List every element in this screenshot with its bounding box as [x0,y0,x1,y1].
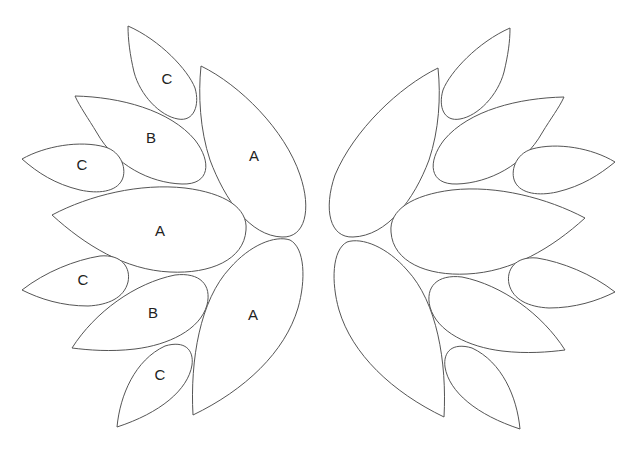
leaf-label: A [249,147,259,164]
leaf-label: C [77,156,88,173]
leaf-label: B [148,304,158,321]
leaf-right-top-c [441,28,510,119]
leaf-left-lower-c: C [22,256,129,306]
left-cluster: C A B C A C B [22,26,306,427]
leaf-left-bottom-c: C [117,344,192,427]
leaf-right-mid-c [513,146,615,194]
leaf-label: C [155,366,166,383]
leaf-right-lower-c [508,258,615,308]
leaf-right-mid-a [391,189,585,274]
leaf-right-bottom-c [445,346,520,429]
leaf-label: C [162,70,173,87]
leaf-label: A [248,306,258,323]
leaf-left-mid-c: C [22,144,124,192]
leaf-label: A [155,222,165,239]
leaf-label: B [146,129,156,146]
right-cluster [329,28,615,429]
leaf-diagram: C A B C A C B [0,0,638,452]
leaf-left-mid-a: A [52,187,246,272]
leaf-label: C [78,271,89,288]
